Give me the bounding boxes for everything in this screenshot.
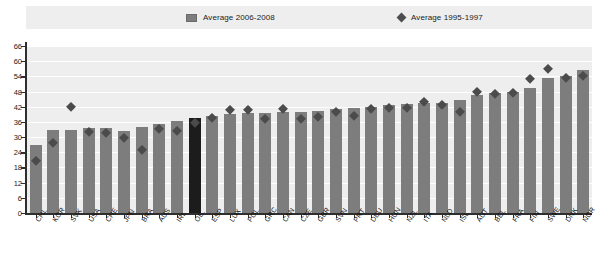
bar-slot (471, 46, 483, 213)
bar-slot (118, 46, 130, 213)
bar-slot (136, 46, 148, 213)
y-tick-label: 48 (0, 87, 22, 96)
legend-entry-bar-series: Average 2006-2008 (186, 6, 275, 29)
bar (65, 130, 77, 214)
y-tick-label: 42 (0, 102, 22, 111)
y-tick-label: 6 (0, 193, 22, 202)
bar (524, 88, 536, 213)
y-tick-mark (21, 137, 26, 138)
bar (383, 105, 395, 213)
y-tick-label: 30 (0, 133, 22, 142)
bar-slot (206, 46, 218, 213)
legend-diamond-label: Average 1995-1997 (411, 13, 483, 22)
legend-diamond-marker-icon (397, 13, 407, 23)
bar (153, 124, 165, 213)
bar (83, 128, 95, 213)
bar (348, 108, 360, 213)
y-tick-label: 36 (0, 117, 22, 126)
y-tick-mark (21, 107, 26, 108)
bar-slot (242, 46, 254, 213)
bar (224, 114, 236, 213)
bar-slot (312, 46, 324, 213)
bar (471, 95, 483, 213)
bar-slot (330, 46, 342, 213)
plot-wrapper: 0612182430364248546066 CHLKORSVKUSACHEJP… (0, 34, 601, 260)
chart-legend: Average 2006-2008 Average 1995-1997 (26, 6, 592, 29)
bar-slot (47, 46, 59, 213)
bar-highlighted (189, 118, 201, 213)
bar (259, 113, 271, 213)
y-tick-mark (21, 92, 26, 93)
y-tick-mark (21, 213, 26, 214)
y-tick-mark (21, 183, 26, 184)
bar (295, 112, 307, 213)
bar-slot (507, 46, 519, 213)
bar-slot (489, 46, 501, 213)
bar-slot (295, 46, 307, 213)
bar-slot (277, 46, 289, 213)
y-tick-label: 60 (0, 57, 22, 66)
y-axis-tick-labels: 0612182430364248546066 (0, 34, 22, 214)
bar-slot (30, 46, 42, 213)
y-tick-label: 54 (0, 72, 22, 81)
y-tick-mark (21, 46, 26, 47)
bar-slot (436, 46, 448, 213)
bar-slot (259, 46, 271, 213)
plot-area (27, 46, 592, 213)
bar (100, 128, 112, 213)
chart-screenshot: Average 2006-2008 Average 1995-1997 0612… (0, 0, 601, 260)
legend-bar-label: Average 2006-2008 (203, 13, 275, 22)
bar (577, 70, 589, 213)
bar (401, 104, 413, 213)
bar-slot (365, 46, 377, 213)
bar (277, 112, 289, 213)
bar-slot (418, 46, 430, 213)
y-tick-mark (21, 152, 26, 153)
bar (365, 107, 377, 213)
y-tick-label: 24 (0, 148, 22, 157)
bar (206, 116, 218, 213)
bar-slot (189, 46, 201, 213)
bar-slot (560, 46, 572, 213)
y-tick-mark (21, 61, 26, 62)
bar-slot (524, 46, 536, 213)
bar (418, 103, 430, 213)
bar-slot (401, 46, 413, 213)
bar-series-group (27, 46, 592, 213)
bar (136, 127, 148, 213)
bar (560, 76, 572, 213)
bar (242, 113, 254, 213)
bar (118, 131, 130, 213)
bar-slot (454, 46, 466, 213)
bar (436, 103, 448, 213)
y-tick-label: 66 (0, 42, 22, 51)
y-tick-mark (21, 198, 26, 199)
y-tick-label: 0 (0, 209, 22, 218)
bar (489, 93, 501, 213)
bar (507, 92, 519, 213)
bar (312, 111, 324, 213)
y-tick-label: 18 (0, 163, 22, 172)
bar-slot (224, 46, 236, 213)
bar-slot (65, 46, 77, 213)
y-tick-mark (21, 122, 26, 123)
bar (454, 100, 466, 213)
y-tick-label: 12 (0, 178, 22, 187)
bar (542, 78, 554, 213)
bar (330, 109, 342, 213)
legend-entry-diamond-series: Average 1995-1997 (398, 6, 483, 29)
y-tick-mark (21, 167, 26, 168)
bar-slot (383, 46, 395, 213)
x-axis-category-labels: CHLKORSVKUSACHEJPNBRAAUSIRLOE.ESPLUXPOLG… (0, 219, 601, 260)
legend-bar-swatch-icon (186, 14, 197, 22)
y-tick-mark (21, 76, 26, 77)
bar-slot (348, 46, 360, 213)
